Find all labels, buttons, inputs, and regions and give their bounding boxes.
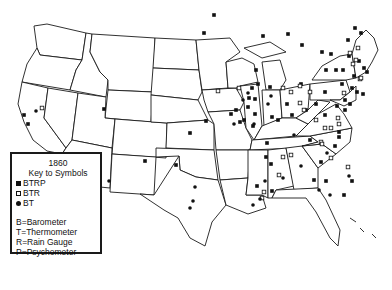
- filled-circle-icon: [16, 201, 21, 206]
- station-marker: [253, 97, 257, 101]
- station-marker: [324, 68, 328, 72]
- station-marker: [323, 113, 327, 117]
- station-marker: [359, 76, 363, 80]
- station-marker: [346, 38, 350, 42]
- legend-key: 1860 Key to Symbols BTRP BTR BT B=Barome…: [10, 152, 102, 254]
- station-marker: [355, 90, 359, 94]
- station-marker: [343, 98, 347, 102]
- station-marker: [270, 189, 274, 193]
- station-marker: [333, 144, 337, 148]
- station-marker: [328, 193, 332, 197]
- legend-title: Key to Symbols: [16, 168, 100, 178]
- open-square-icon: [16, 191, 21, 196]
- station-marker: [202, 31, 206, 35]
- station-marker: [298, 84, 302, 88]
- station-marker: [320, 50, 324, 54]
- station-marker: [353, 26, 357, 30]
- station-marker: [359, 31, 363, 35]
- station-marker: [143, 159, 147, 163]
- station-marker: [191, 199, 195, 203]
- station-marker: [281, 176, 285, 180]
- station-marker: [255, 184, 259, 188]
- station-marker: [323, 90, 327, 94]
- station-marker: [308, 90, 312, 94]
- legend-item-btrp: BTRP: [16, 178, 100, 188]
- station-marker: [337, 135, 341, 139]
- station-marker: [335, 104, 339, 108]
- station-marker: [342, 91, 346, 95]
- station-marker: [320, 142, 324, 146]
- station-marker: [22, 113, 26, 117]
- station-marker: [188, 131, 192, 135]
- abbr-thermometer: T=Thermometer: [16, 227, 100, 237]
- station-marker: [289, 90, 293, 94]
- station-marker: [253, 112, 257, 116]
- station-marker: [352, 74, 356, 78]
- station-marker: [265, 141, 269, 145]
- station-marker: [212, 13, 216, 17]
- station-marker: [347, 174, 351, 178]
- legend-item-bt: BT: [16, 198, 100, 208]
- station-marker: [216, 89, 220, 93]
- station-marker: [337, 130, 341, 134]
- station-marker: [241, 98, 245, 102]
- station-marker: [286, 32, 290, 36]
- station-marker: [261, 34, 265, 38]
- station-marker: [308, 138, 312, 142]
- station-marker: [193, 185, 197, 189]
- abbr-psychometer: P=Psychometer: [16, 247, 100, 257]
- station-marker: [329, 52, 333, 56]
- station-marker: [324, 179, 328, 183]
- station-marker: [263, 179, 267, 183]
- station-marker: [270, 115, 274, 119]
- station-marker: [285, 102, 289, 106]
- station-marker: [34, 109, 38, 113]
- station-marker: [299, 164, 303, 168]
- station-marker: [247, 96, 251, 100]
- station-marker: [290, 113, 294, 117]
- station-marker: [269, 94, 273, 98]
- station-marker: [246, 91, 250, 95]
- station-marker: [343, 108, 347, 112]
- station-marker: [336, 116, 340, 120]
- station-marker: [289, 153, 293, 157]
- station-marker: [362, 66, 366, 70]
- station-marker: [334, 68, 338, 72]
- abbr-rain-gauge: R=Rain Gauge: [16, 237, 100, 247]
- station-marker: [277, 173, 281, 177]
- station-marker: [281, 86, 285, 90]
- station-marker: [188, 206, 192, 210]
- bahamas-islands: [350, 218, 376, 238]
- station-marker: [40, 106, 44, 110]
- station-marker: [317, 188, 321, 192]
- station-marker: [312, 178, 316, 182]
- station-marker: [174, 163, 178, 167]
- legend-year: 1860: [16, 158, 100, 168]
- station-marker: [254, 68, 258, 72]
- station-marker: [350, 86, 354, 90]
- station-marker: [281, 155, 285, 159]
- station-marker: [300, 43, 304, 47]
- filled-square-icon: [16, 181, 21, 186]
- station-marker: [302, 108, 306, 112]
- station-marker: [229, 112, 233, 116]
- station-marker: [26, 122, 30, 126]
- station-marker: [250, 86, 254, 90]
- station-marker: [258, 197, 262, 201]
- station-marker: [351, 62, 355, 66]
- station-marker: [292, 133, 296, 137]
- station-marker: [356, 46, 360, 50]
- station-marker: [264, 155, 268, 159]
- station-marker: [234, 108, 238, 112]
- station-marker: [232, 122, 236, 126]
- station-marker: [365, 70, 369, 74]
- station-marker: [102, 107, 106, 111]
- station-marker: [329, 156, 333, 160]
- station-marker: [269, 162, 273, 166]
- legend-item-btr: BTR: [16, 188, 100, 198]
- abbr-barometer: B=Barometer: [16, 217, 100, 227]
- station-marker: [298, 101, 302, 105]
- station-marker: [107, 179, 111, 183]
- station-marker: [314, 118, 318, 122]
- station-marker: [348, 51, 352, 55]
